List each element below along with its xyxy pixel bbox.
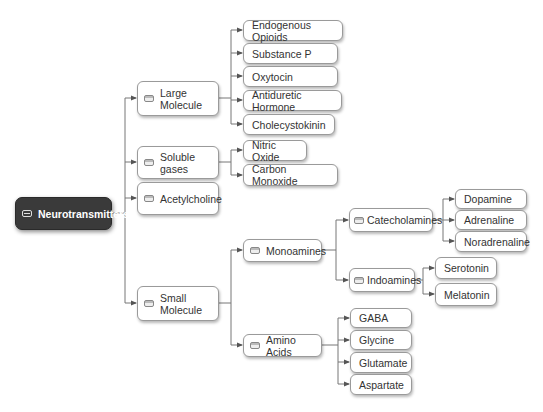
root-node-neurotransmitters[interactable]: Neurotransmitters bbox=[15, 197, 112, 230]
topic-icon bbox=[144, 95, 154, 102]
node-label: Glutamate bbox=[359, 357, 407, 369]
topic-icon bbox=[354, 217, 364, 224]
leaf-node[interactable]: Noradrenaline bbox=[455, 231, 527, 252]
node-label: Soluble gases bbox=[160, 151, 204, 175]
leaf-node[interactable]: Substance P bbox=[243, 43, 338, 64]
leaf-node[interactable]: Dopamine bbox=[455, 189, 527, 209]
leaf-node[interactable]: Adrenaline bbox=[455, 210, 527, 230]
node-label: Dopamine bbox=[464, 193, 512, 205]
node-label: Noradrenaline bbox=[464, 236, 530, 248]
leaf-node[interactable]: Serotonin bbox=[435, 257, 497, 279]
leaf-node[interactable]: GABA bbox=[350, 308, 412, 328]
node-label: Amino Acids bbox=[266, 334, 315, 358]
node-label: Monoamines bbox=[266, 245, 326, 257]
node-indoamines[interactable]: Indoamines bbox=[349, 268, 415, 292]
leaf-node[interactable]: Glycine bbox=[350, 330, 412, 350]
node-label: Catecholamines bbox=[367, 214, 442, 226]
leaf-node[interactable]: Endogenous Opioids bbox=[243, 20, 343, 41]
leaf-node[interactable]: Cholecystokinin bbox=[243, 114, 335, 135]
leaf-node[interactable]: Melatonin bbox=[435, 283, 497, 306]
node-soluble-gases[interactable]: Soluble gases bbox=[137, 146, 219, 179]
node-label: Adrenaline bbox=[464, 214, 514, 226]
node-label: Neurotransmitters bbox=[38, 208, 129, 220]
node-label: Melatonin bbox=[444, 289, 490, 301]
leaf-node[interactable]: Nitric Oxide bbox=[243, 140, 307, 161]
node-label: Glycine bbox=[359, 334, 394, 346]
leaf-node[interactable]: Oxytocin bbox=[243, 66, 338, 87]
node-catecholamines[interactable]: Catecholamines bbox=[349, 208, 433, 232]
topic-icon bbox=[250, 342, 260, 349]
node-acetylcholine[interactable]: Acetylcholine bbox=[137, 182, 219, 215]
leaf-node[interactable]: Glutamate bbox=[350, 352, 412, 373]
topic-icon bbox=[144, 195, 154, 202]
node-large-molecule[interactable]: Large Molecule bbox=[137, 81, 219, 116]
node-amino-acids[interactable]: Amino Acids bbox=[243, 334, 322, 357]
topic-icon bbox=[250, 247, 260, 254]
leaf-node[interactable]: Carbon Monoxide bbox=[243, 164, 338, 186]
node-label: GABA bbox=[359, 312, 388, 324]
node-label: Indoamines bbox=[367, 274, 421, 286]
leaf-node[interactable]: Aspartate bbox=[350, 374, 412, 395]
node-label: Antiduretic Hormone bbox=[252, 89, 335, 113]
node-label: Endogenous Opioids bbox=[252, 19, 336, 43]
collapse-icon[interactable] bbox=[22, 210, 32, 217]
node-monoamines[interactable]: Monoamines bbox=[243, 239, 322, 262]
topic-icon bbox=[144, 159, 154, 166]
node-label: Oxytocin bbox=[252, 71, 293, 83]
node-label: Carbon Monoxide bbox=[252, 163, 331, 187]
node-label: Aspartate bbox=[359, 379, 404, 391]
leaf-node[interactable]: Antiduretic Hormone bbox=[243, 90, 342, 111]
node-label: Large Molecule bbox=[160, 87, 210, 111]
topic-icon bbox=[354, 277, 364, 284]
node-label: Small Molecule bbox=[160, 292, 210, 316]
node-label: Nitric Oxide bbox=[252, 139, 300, 163]
node-label: Cholecystokinin bbox=[252, 119, 326, 131]
node-small-molecule[interactable]: Small Molecule bbox=[137, 286, 219, 321]
node-label: Serotonin bbox=[444, 262, 489, 274]
topic-icon bbox=[144, 300, 154, 307]
node-label: Acetylcholine bbox=[160, 193, 222, 205]
node-label: Substance P bbox=[252, 48, 312, 60]
